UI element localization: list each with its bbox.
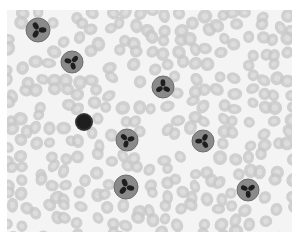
red-blood-cell [15, 60, 31, 77]
red-blood-cell [133, 100, 147, 115]
neutrophil [237, 179, 259, 201]
red-blood-cell [285, 190, 292, 204]
neutrophil [116, 129, 138, 151]
red-blood-cell [7, 72, 14, 88]
neutrophil [152, 76, 174, 98]
red-blood-cell [266, 99, 284, 117]
red-blood-cell [245, 95, 260, 109]
blood-smear-image [7, 10, 292, 232]
neutrophil [26, 18, 50, 42]
micrograph-canvas [7, 10, 292, 232]
red-blood-cell [285, 89, 292, 101]
red-blood-cell [28, 55, 43, 68]
lymphocyte [75, 113, 93, 131]
red-blood-cell [213, 150, 228, 165]
red-blood-cell [170, 10, 187, 22]
red-blood-cell [230, 18, 244, 30]
red-blood-cell [41, 58, 57, 69]
red-blood-cell [73, 199, 90, 213]
red-blood-cell [7, 218, 13, 230]
red-blood-cell [157, 10, 171, 24]
red-blood-cell [114, 99, 133, 117]
red-blood-cell [124, 55, 143, 74]
red-blood-cell [68, 148, 86, 166]
red-blood-cell [58, 178, 73, 191]
red-blood-cell [89, 165, 105, 181]
red-blood-cell [56, 122, 71, 135]
red-blood-cell [243, 30, 255, 43]
red-blood-cell [147, 61, 164, 78]
red-blood-cell [213, 46, 229, 60]
red-blood-cell [215, 135, 231, 152]
red-blood-cell [242, 115, 257, 129]
red-blood-cell [212, 215, 231, 232]
red-blood-cell [284, 170, 292, 190]
red-blood-cell [232, 167, 246, 181]
red-blood-cell [100, 200, 113, 214]
red-blood-cell [267, 115, 282, 128]
red-blood-cell [242, 217, 256, 232]
red-blood-cell [43, 121, 56, 135]
red-blood-cell [14, 172, 30, 188]
red-blood-cell [158, 211, 172, 226]
red-blood-cell [144, 102, 156, 115]
red-blood-cell [83, 231, 98, 232]
red-blood-cell [116, 197, 131, 214]
red-blood-cell [42, 136, 56, 150]
red-blood-cell [159, 99, 176, 114]
red-blood-cell [238, 10, 251, 18]
red-blood-cell [269, 201, 285, 218]
neutrophil [192, 130, 214, 152]
neutrophil [114, 175, 138, 199]
red-blood-cell [198, 54, 218, 74]
red-blood-cell [225, 70, 243, 86]
red-blood-cell [7, 197, 19, 212]
red-blood-cell [214, 71, 227, 84]
red-blood-cell [71, 133, 85, 149]
red-blood-cell [73, 185, 85, 198]
red-blood-cell [243, 150, 255, 164]
red-blood-cell [207, 80, 226, 98]
red-blood-cell [100, 88, 118, 104]
red-blood-cell [169, 216, 186, 232]
red-blood-cell [15, 219, 29, 232]
red-blood-cell [36, 230, 50, 232]
red-blood-cell [227, 88, 243, 101]
red-blood-cell [279, 44, 292, 61]
red-blood-cell [7, 140, 16, 155]
red-blood-cell [286, 153, 292, 166]
red-blood-cell [227, 151, 244, 167]
red-blood-cell [278, 135, 292, 152]
red-blood-cell [15, 160, 29, 173]
red-blood-cell [131, 73, 148, 90]
red-blood-cell [172, 148, 188, 164]
red-blood-cell [105, 156, 118, 167]
red-blood-cell [270, 229, 288, 232]
red-blood-cell [141, 161, 158, 178]
red-blood-cell [284, 231, 292, 232]
red-blood-cell [199, 191, 215, 208]
red-blood-cell [286, 101, 292, 114]
red-blood-cell [259, 215, 273, 229]
red-blood-cell [79, 174, 92, 188]
red-blood-cell [145, 10, 159, 17]
neutrophil [61, 51, 83, 73]
red-blood-cell [189, 168, 201, 180]
